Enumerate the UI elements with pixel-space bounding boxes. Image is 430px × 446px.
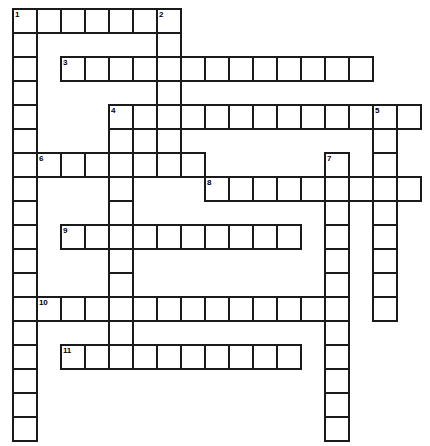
crossword-cell-numbered[interactable] <box>36 296 62 322</box>
crossword-cell[interactable] <box>324 176 350 202</box>
crossword-cell[interactable] <box>156 152 182 178</box>
crossword-cell[interactable] <box>156 128 182 154</box>
crossword-cell[interactable] <box>228 104 254 130</box>
crossword-cell[interactable] <box>324 272 350 298</box>
crossword-cell[interactable] <box>12 80 38 106</box>
crossword-cell[interactable] <box>204 224 230 250</box>
crossword-cell[interactable] <box>156 296 182 322</box>
crossword-cell-numbered[interactable] <box>60 344 86 370</box>
crossword-cell[interactable] <box>156 80 182 106</box>
crossword-cell[interactable] <box>252 56 278 82</box>
crossword-cell[interactable] <box>204 104 230 130</box>
crossword-cell[interactable] <box>324 104 350 130</box>
crossword-cell[interactable] <box>132 344 158 370</box>
crossword-cell[interactable] <box>276 104 302 130</box>
crossword-cell[interactable] <box>132 8 158 34</box>
crossword-cell[interactable] <box>36 8 62 34</box>
crossword-cell[interactable] <box>228 176 254 202</box>
crossword-cell-numbered[interactable] <box>12 8 38 34</box>
crossword-cell[interactable] <box>12 272 38 298</box>
crossword-cell[interactable] <box>12 392 38 418</box>
crossword-cell[interactable] <box>156 104 182 130</box>
crossword-cell[interactable] <box>180 296 206 322</box>
crossword-cell[interactable] <box>60 8 86 34</box>
crossword-cell[interactable] <box>156 344 182 370</box>
crossword-cell[interactable] <box>108 176 134 202</box>
crossword-cell[interactable] <box>252 224 278 250</box>
crossword-cell[interactable] <box>228 344 254 370</box>
crossword-cell[interactable] <box>180 152 206 178</box>
crossword-cell[interactable] <box>12 32 38 58</box>
crossword-cell[interactable] <box>84 344 110 370</box>
crossword-cell[interactable] <box>276 56 302 82</box>
crossword-cell-numbered[interactable] <box>60 56 86 82</box>
crossword-cell[interactable] <box>60 152 86 178</box>
crossword-cell[interactable] <box>108 152 134 178</box>
crossword-cell[interactable] <box>12 104 38 130</box>
crossword-cell[interactable] <box>156 32 182 58</box>
crossword-cell[interactable] <box>348 104 374 130</box>
crossword-cell[interactable] <box>204 56 230 82</box>
crossword-cell[interactable] <box>372 224 398 250</box>
crossword-cell[interactable] <box>324 344 350 370</box>
crossword-cell[interactable] <box>324 392 350 418</box>
crossword-cell[interactable] <box>108 272 134 298</box>
crossword-cell[interactable] <box>12 416 38 442</box>
crossword-cell[interactable] <box>324 248 350 274</box>
crossword-cell[interactable] <box>108 224 134 250</box>
crossword-cell[interactable] <box>252 344 278 370</box>
crossword-cell[interactable] <box>84 56 110 82</box>
crossword-cell[interactable] <box>372 176 398 202</box>
crossword-cell[interactable] <box>324 320 350 346</box>
crossword-cell[interactable] <box>84 152 110 178</box>
crossword-cell[interactable] <box>324 200 350 226</box>
crossword-cell[interactable] <box>348 176 374 202</box>
crossword-cell[interactable] <box>324 224 350 250</box>
crossword-cell[interactable] <box>204 296 230 322</box>
crossword-cell-numbered[interactable] <box>60 224 86 250</box>
crossword-cell[interactable] <box>300 56 326 82</box>
crossword-cell[interactable] <box>228 224 254 250</box>
crossword-cell[interactable] <box>132 56 158 82</box>
crossword-cell[interactable] <box>156 56 182 82</box>
crossword-cell[interactable] <box>132 224 158 250</box>
crossword-cell[interactable] <box>300 176 326 202</box>
crossword-cell[interactable] <box>372 248 398 274</box>
crossword-cell[interactable] <box>348 56 374 82</box>
crossword-cell[interactable] <box>12 296 38 322</box>
crossword-cell[interactable] <box>276 296 302 322</box>
crossword-cell[interactable] <box>300 296 326 322</box>
crossword-cell[interactable] <box>108 296 134 322</box>
crossword-cell[interactable] <box>372 272 398 298</box>
crossword-cell[interactable] <box>84 296 110 322</box>
crossword-cell-numbered[interactable] <box>108 104 134 130</box>
crossword-cell[interactable] <box>12 152 38 178</box>
crossword-cell[interactable] <box>12 344 38 370</box>
crossword-cell[interactable] <box>372 152 398 178</box>
crossword-cell[interactable] <box>108 344 134 370</box>
crossword-cell[interactable] <box>12 128 38 154</box>
crossword-cell[interactable] <box>180 224 206 250</box>
crossword-cell[interactable] <box>228 56 254 82</box>
crossword-cell[interactable] <box>276 176 302 202</box>
crossword-cell[interactable] <box>372 200 398 226</box>
crossword-cell-numbered[interactable] <box>372 104 398 130</box>
crossword-cell[interactable] <box>252 104 278 130</box>
crossword-cell[interactable] <box>12 224 38 250</box>
crossword-cell[interactable] <box>372 296 398 322</box>
crossword-cell[interactable] <box>84 8 110 34</box>
crossword-cell[interactable] <box>108 200 134 226</box>
crossword-cell[interactable] <box>204 344 230 370</box>
crossword-cell[interactable] <box>12 56 38 82</box>
crossword-cell[interactable] <box>132 296 158 322</box>
crossword-cell[interactable] <box>252 296 278 322</box>
crossword-cell[interactable] <box>108 248 134 274</box>
crossword-cell[interactable] <box>396 104 422 130</box>
crossword-cell[interactable] <box>60 296 86 322</box>
crossword-cell[interactable] <box>324 368 350 394</box>
crossword-cell[interactable] <box>156 224 182 250</box>
crossword-cell[interactable] <box>180 344 206 370</box>
crossword-cell[interactable] <box>132 152 158 178</box>
crossword-cell[interactable] <box>324 56 350 82</box>
crossword-cell[interactable] <box>108 56 134 82</box>
